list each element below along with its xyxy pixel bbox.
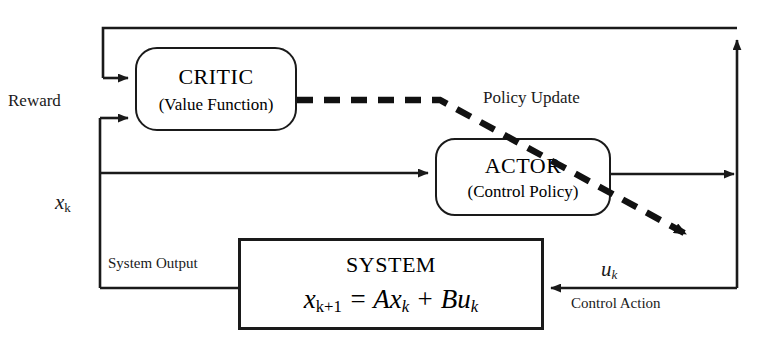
actor-subtitle: (Control Policy): [468, 182, 579, 202]
critic-title: CRITIC: [178, 64, 253, 90]
state-label: xk: [55, 192, 71, 214]
eq-A: A: [373, 284, 390, 314]
policy-update-label: Policy Update: [483, 89, 580, 106]
eq-x-sub: k: [402, 296, 409, 315]
actor-title: ACTOR: [485, 153, 562, 179]
actor-node: ACTOR (Control Policy): [435, 138, 611, 216]
system-equation: xk+1 = Axk + Buk: [304, 284, 479, 317]
eq-x: x: [390, 284, 402, 314]
eq-plus: +: [409, 284, 441, 314]
system-title: SYSTEM: [346, 252, 436, 278]
eq-B: B: [441, 284, 458, 314]
control-symbol: u: [601, 257, 612, 281]
eq-equals: =: [342, 284, 373, 314]
eq-u-sub: k: [471, 296, 478, 315]
eq-x-next: x: [304, 284, 316, 314]
system-output-label: System Output: [108, 256, 198, 271]
critic-node: CRITIC (Value Function): [135, 47, 297, 131]
control-action-label: Control Action: [571, 296, 661, 311]
state-symbol-sub: k: [64, 200, 71, 215]
eq-x-next-sub: k+1: [316, 296, 342, 315]
system-node: SYSTEM xk+1 = Axk + Buk: [238, 238, 544, 330]
critic-subtitle: (Value Function): [159, 95, 274, 115]
diagram-canvas: CRITIC (Value Function) ACTOR (Control P…: [0, 0, 775, 344]
reward-label: Reward: [8, 92, 61, 109]
state-symbol: x: [55, 190, 64, 214]
control-label: uk: [601, 259, 617, 281]
control-symbol-sub: k: [612, 267, 618, 282]
eq-u: u: [457, 284, 471, 314]
